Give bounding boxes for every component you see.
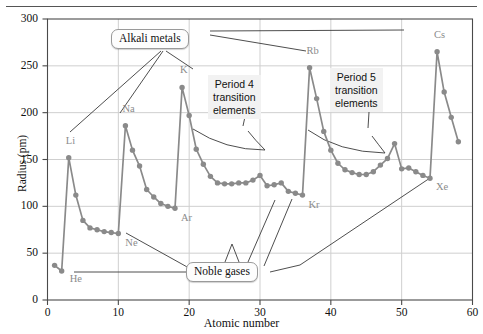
element-label-Ar: Ar xyxy=(181,212,192,223)
data-point-B xyxy=(80,218,85,223)
data-point-Na xyxy=(123,123,128,128)
data-point-He xyxy=(59,268,64,273)
data-point-Xe xyxy=(427,176,432,181)
data-point-Cl xyxy=(165,204,170,209)
data-point-P xyxy=(151,194,156,199)
y-tick-label-100: 100 xyxy=(4,199,38,211)
annotation-period-4-transition: Period 4 transition elements xyxy=(208,75,261,119)
data-point-Li xyxy=(66,155,71,160)
data-point-Ce xyxy=(456,139,461,144)
callout-noble-gases: Noble gases xyxy=(186,262,258,282)
data-point-Rb xyxy=(307,65,312,70)
data-point-Sc xyxy=(194,147,199,152)
callout-alkali-metals: Alkali metals xyxy=(111,29,189,49)
data-point-C xyxy=(87,225,92,230)
data-point-As xyxy=(279,180,284,185)
data-point-Ar xyxy=(172,206,177,211)
data-point-Ca xyxy=(186,113,191,118)
annotation-line: transition xyxy=(335,84,378,97)
data-point-La xyxy=(449,115,454,120)
element-label-Li: Li xyxy=(66,135,75,146)
element-label-K: K xyxy=(180,64,188,75)
annotation-line: elements xyxy=(335,97,378,110)
annotation-period-5-transition: Period 5 transition elements xyxy=(330,68,383,112)
element-label-Kr: Kr xyxy=(309,199,320,210)
data-point-Zr xyxy=(328,147,333,152)
element-label-Rb: Rb xyxy=(307,45,319,56)
data-point-Y xyxy=(321,129,326,134)
data-point-Rh xyxy=(364,172,369,177)
data-point-Ti xyxy=(201,161,206,166)
data-point-Mg xyxy=(130,147,135,152)
data-point-Se xyxy=(286,189,291,194)
annotation-line: elements xyxy=(213,104,256,117)
data-point-Ge xyxy=(271,182,276,187)
data-point-Fe xyxy=(229,181,234,186)
data-point-O xyxy=(101,229,106,234)
data-point-Ni xyxy=(243,180,248,185)
y-tick-label-50: 50 xyxy=(4,246,38,258)
element-label-Xe: Xe xyxy=(436,181,448,192)
data-point-Cr xyxy=(215,180,220,185)
data-point-V xyxy=(208,174,213,179)
data-point-Cs xyxy=(434,49,439,54)
data-point-Cu xyxy=(250,177,255,182)
element-label-Cs: Cs xyxy=(434,29,445,40)
element-label-He: He xyxy=(70,273,82,284)
data-point-Si xyxy=(144,187,149,192)
data-point-Br xyxy=(293,191,298,196)
data-point-Al xyxy=(137,163,142,168)
data-point-Ne xyxy=(116,231,121,236)
data-point-Nb xyxy=(335,161,340,166)
data-point-Tc xyxy=(349,170,354,175)
y-tick-label-200: 200 xyxy=(4,106,38,118)
annotation-line: transition xyxy=(213,91,256,104)
data-point-F xyxy=(109,230,114,235)
y-tick-label-300: 300 xyxy=(4,12,38,24)
data-point-Kr xyxy=(300,192,305,197)
data-point-In xyxy=(392,141,397,146)
data-point-H xyxy=(52,263,57,268)
data-point-Ga xyxy=(264,183,269,188)
data-point-K xyxy=(179,85,184,90)
atomic-radius-figure: 050100150200250300 0102030405060 HeLiNeN… xyxy=(0,0,483,334)
data-point-I xyxy=(420,173,425,178)
x-axis-title: Atomic number xyxy=(0,316,483,331)
data-point-S xyxy=(158,201,163,206)
data-point-Ag xyxy=(378,162,383,167)
data-point-Sb xyxy=(406,165,411,170)
data-point-Zn xyxy=(257,173,262,178)
data-point-Sr xyxy=(314,96,319,101)
annotation-line: Period 4 xyxy=(213,78,256,91)
data-point-Ru xyxy=(356,172,361,177)
annotation-line: Period 5 xyxy=(335,71,378,84)
data-point-Te xyxy=(413,169,418,174)
data-point-Pd xyxy=(371,169,376,174)
y-tick-label-250: 250 xyxy=(4,59,38,71)
y-axis-title: Radius (pm) xyxy=(16,135,28,192)
data-point-Ba xyxy=(441,89,446,94)
element-label-Ne: Ne xyxy=(125,237,137,248)
data-point-N xyxy=(94,227,99,232)
element-label-Na: Na xyxy=(122,103,134,114)
y-tick-label-0: 0 xyxy=(4,293,38,305)
data-point-Co xyxy=(236,180,241,185)
data-point-Cd xyxy=(385,156,390,161)
data-point-Be xyxy=(73,192,78,197)
axis-ticks xyxy=(43,19,473,305)
data-point-Mn xyxy=(222,181,227,186)
grid-lines xyxy=(48,19,473,300)
data-point-Sn xyxy=(399,166,404,171)
data-point-Mo xyxy=(342,167,347,172)
